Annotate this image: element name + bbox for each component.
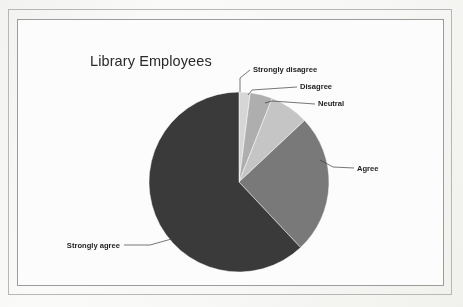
slice-label-strongly-agree: Strongly agree — [67, 241, 120, 250]
leader-line-strongly-agree — [124, 238, 175, 245]
slice-label-disagree: Disagree — [300, 82, 332, 91]
leader-line-strongly-disagree — [240, 70, 250, 92]
slice-label-agree: Agree — [357, 164, 379, 173]
pie-slices-group — [149, 92, 329, 272]
slice-label-neutral: Neutral — [318, 99, 344, 108]
pie-chart-svg: Strongly disagreeDisagreeNeutralAgreeStr… — [17, 19, 444, 286]
screenshot-page: Library Employees Strongly disagreeDisag… — [0, 0, 463, 307]
pie-chart-container: Strongly disagreeDisagreeNeutralAgreeStr… — [17, 19, 444, 286]
slice-label-strongly-disagree: Strongly disagree — [253, 65, 317, 74]
